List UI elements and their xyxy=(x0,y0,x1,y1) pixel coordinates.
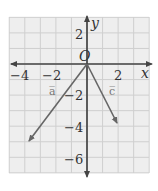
y-tick-neg2: −2 xyxy=(64,88,83,103)
x-tick-2: 2 xyxy=(114,68,122,83)
y-tick-neg4: −4 xyxy=(64,120,83,135)
y-tick-neg6: −6 xyxy=(64,152,83,167)
x-tick-neg4: −4 xyxy=(10,68,29,83)
origin-label: O xyxy=(79,48,91,64)
vector-a-label: a̅ xyxy=(49,85,56,98)
y-axis-label: y xyxy=(90,15,100,31)
coordinate-plane: y x O 2 −2 −4 −6 −4 −2 2 a̅ c̅ xyxy=(0,0,158,191)
vector-c-label: c̅ xyxy=(109,85,115,98)
x-axis-label: x xyxy=(141,65,149,81)
y-tick-2: 2 xyxy=(75,27,83,42)
x-tick-neg2: −2 xyxy=(42,68,61,83)
